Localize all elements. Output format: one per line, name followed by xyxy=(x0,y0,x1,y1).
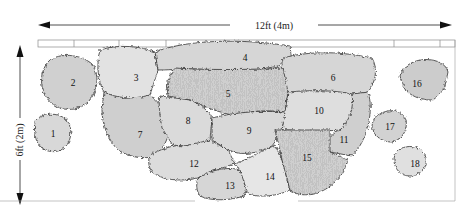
plant-region-2 xyxy=(42,55,97,109)
arrow-up-icon xyxy=(17,45,24,57)
plant-label-18: 18 xyxy=(410,159,420,169)
arrow-left-icon xyxy=(38,22,50,29)
plant-label-5: 5 xyxy=(226,89,231,99)
plant-label-14: 14 xyxy=(265,172,275,182)
plant-region-6 xyxy=(282,53,376,95)
plant-label-1: 1 xyxy=(51,129,56,139)
plant-label-3: 3 xyxy=(134,73,139,83)
height-dimension: 6ft (2m) xyxy=(14,45,26,205)
plant-region-16 xyxy=(400,60,448,101)
plant-label-13: 13 xyxy=(225,181,235,191)
plant-label-7: 7 xyxy=(138,130,143,140)
plant-label-2: 2 xyxy=(71,78,76,88)
plant-label-6: 6 xyxy=(331,73,336,83)
width-label: 12ft (4m) xyxy=(255,20,293,32)
plant-label-11: 11 xyxy=(339,135,348,145)
plant-label-10: 10 xyxy=(314,106,324,116)
plant-label-4: 4 xyxy=(243,53,248,63)
planting-plan-diagram: 12ft (4m) 6ft (2m) xyxy=(0,0,471,217)
plant-label-9: 9 xyxy=(247,126,252,136)
width-dimension: 12ft (4m) xyxy=(38,20,452,32)
arrow-down-icon xyxy=(17,193,24,205)
arrow-right-icon xyxy=(440,22,452,29)
plant-label-17: 17 xyxy=(385,122,395,132)
plant-region-4 xyxy=(155,41,292,71)
plant-label-15: 15 xyxy=(302,153,312,163)
plant-label-16: 16 xyxy=(412,79,422,89)
plant-label-8: 8 xyxy=(186,116,191,126)
height-label: 6ft (2m) xyxy=(14,123,26,156)
plant-label-12: 12 xyxy=(189,159,199,169)
